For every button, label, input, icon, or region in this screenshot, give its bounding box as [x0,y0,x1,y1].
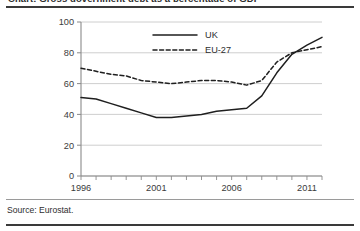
y-tick-label: 40 [64,110,74,120]
line-chart: 0204060801001996200120062011UKEU-27 [0,10,360,200]
source-note: Source: Eurostat. [7,205,73,215]
source-divider-rule [6,199,354,200]
y-tick-label: 100 [59,17,74,27]
x-tick-label: 2011 [297,183,317,193]
legend-label-eu-27: EU-27 [205,45,231,55]
figure-title-cutoff: Chart: Gross government debt as a percen… [8,0,352,2]
plot-area: 0204060801001996200120062011UKEU-27 [0,10,360,200]
chart-figure: Chart: Gross government debt as a percen… [0,0,360,231]
top-rule [6,6,354,8]
x-tick-label: 1996 [71,183,91,193]
legend-label-uk: UK [205,30,219,40]
y-tick-label: 0 [69,171,74,181]
y-tick-label: 80 [64,48,74,58]
y-tick-label: 60 [64,79,74,89]
y-tick-label: 20 [64,141,74,151]
bottom-rule [6,224,354,226]
x-tick-label: 2006 [221,183,241,193]
x-tick-label: 2001 [146,183,166,193]
series-line-uk [81,37,322,117]
